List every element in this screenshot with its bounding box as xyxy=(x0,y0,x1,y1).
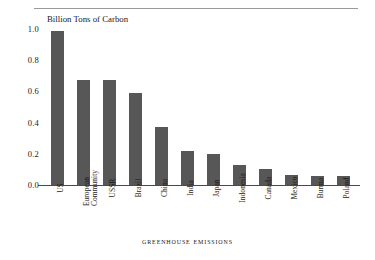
x-axis-label-line: Canada xyxy=(264,177,273,200)
y-axis-tick-label: 0.2 xyxy=(28,150,39,159)
x-axis-label-slot: China xyxy=(147,188,175,234)
x-axis-label: Mexico xyxy=(291,176,299,199)
bar-slot xyxy=(129,29,142,185)
x-axis-label-slot: Brazil xyxy=(121,188,149,234)
x-axis-label-line: Japan xyxy=(212,179,221,196)
x-axis-label: Japan xyxy=(213,179,221,196)
x-axis-label: Poland xyxy=(343,177,351,198)
x-axis-label-line: Indonesia xyxy=(238,173,247,203)
y-axis-tick-label: 0.0 xyxy=(28,181,39,190)
y-axis-tick-label: 0.4 xyxy=(28,118,39,127)
x-axis-label-slot: Mexico xyxy=(277,188,305,234)
bar-slot xyxy=(181,29,194,185)
bar xyxy=(155,127,168,185)
bar-slot xyxy=(155,29,168,185)
y-axis-tick-label: 1.0 xyxy=(28,25,39,34)
x-axis-label-line: US xyxy=(56,183,65,193)
figure-caption: Greenhouse Emissions xyxy=(0,236,375,246)
x-axis-label-slot: Canada xyxy=(251,188,279,234)
x-axis-label-slot: Indonesia xyxy=(225,188,253,234)
x-axis-label: US xyxy=(57,183,65,193)
bar xyxy=(103,80,116,185)
x-axis-label-line: USSR xyxy=(108,179,117,198)
x-axis-label: Burma xyxy=(317,178,325,199)
x-axis-label-slot: India xyxy=(173,188,201,234)
x-axis-label: Canada xyxy=(265,177,273,200)
x-axis-label: Brazil xyxy=(135,179,143,198)
chart-title: Billion Tons of Carbon xyxy=(47,15,128,24)
bar-slot xyxy=(259,29,272,185)
x-axis-label: USSR xyxy=(109,179,117,198)
bar xyxy=(51,31,64,185)
bar xyxy=(129,93,142,185)
x-axis-label-line: China xyxy=(160,179,169,197)
plot-area: 1.00.80.60.40.20.0 xyxy=(44,29,356,185)
x-axis-label-slot: Poland xyxy=(329,188,357,234)
bar-slot xyxy=(103,29,116,185)
x-axis-label-slot: US xyxy=(43,188,71,234)
x-axis-label-line: Mexico xyxy=(290,176,299,199)
greenhouse-emissions-figure: Billion Tons of Carbon 1.00.80.60.40.20.… xyxy=(0,0,375,260)
x-axis-label: Indonesia xyxy=(239,173,247,203)
x-axis-label-line: India xyxy=(186,180,195,196)
bar-slot xyxy=(77,29,90,185)
x-axis-label: China xyxy=(161,179,169,197)
y-axis-tick-label: 0.8 xyxy=(28,56,39,65)
bar-slot xyxy=(337,29,350,185)
x-axis-label: India xyxy=(187,180,195,196)
bar-slot xyxy=(233,29,246,185)
x-axis-label-slot: Japan xyxy=(199,188,227,234)
x-axis-label-line: Poland xyxy=(342,177,351,198)
x-axis-label-slot: Burma xyxy=(303,188,331,234)
x-axis-label-slot: USSR xyxy=(95,188,123,234)
top-rule-divider xyxy=(34,8,358,9)
bar-slot xyxy=(311,29,324,185)
bar-slot xyxy=(285,29,298,185)
y-axis-tick-label: 0.6 xyxy=(28,87,39,96)
bar-slot xyxy=(51,29,64,185)
x-axis-label-line: Brazil xyxy=(134,179,143,198)
x-axis-label-slot: EuropeanCommunity xyxy=(69,188,97,234)
bar-slot xyxy=(207,29,220,185)
x-axis-label-line: Burma xyxy=(316,178,325,199)
